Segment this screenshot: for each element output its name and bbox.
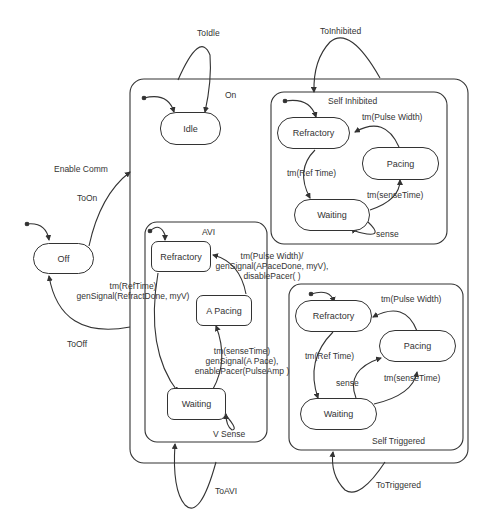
si-waiting-label: Waiting: [317, 210, 347, 220]
label-to-idle: ToIdle: [197, 28, 220, 38]
avi-label-ref-time: tm(RefTime) genSignal(RefractDone, myV): [70, 281, 196, 301]
st-waiting[interactable]: Waiting: [300, 398, 377, 430]
state-idle-label: Idle: [183, 124, 198, 134]
label-to-inhibited: ToInhibited: [320, 26, 361, 36]
avi-refractory-label: Refractory: [160, 252, 202, 262]
state-off[interactable]: Off: [33, 243, 94, 274]
si-label-ref-time: tm(Ref Time): [287, 168, 336, 178]
avi-a-pacing-label: A Pacing: [206, 306, 242, 316]
avi-title: AVI: [202, 227, 215, 237]
st-waiting-label: Waiting: [324, 409, 354, 419]
si-label-sense: sense: [376, 229, 399, 239]
avi-a-pacing[interactable]: A Pacing: [196, 295, 252, 326]
st-label-sense-time: tm(senseTime): [384, 373, 440, 383]
st-label-sense: sense: [336, 378, 359, 388]
label-enable-comm: Enable Comm: [54, 164, 108, 174]
si-refractory[interactable]: Refractory: [277, 117, 350, 149]
si-label-sense-time: tm(senseTime): [367, 190, 423, 200]
label-to-off: ToOff: [67, 339, 87, 349]
si-refractory-label: Refractory: [293, 128, 335, 138]
state-idle[interactable]: Idle: [160, 112, 221, 145]
si-label-pulse-width: tm(Pulse Width): [362, 112, 422, 122]
si-pacing-label: Pacing: [387, 159, 415, 169]
self-triggered-title: Self Triggered: [372, 436, 425, 446]
self-inhibited-title: Self Inhibited: [328, 96, 377, 106]
si-pacing[interactable]: Pacing: [362, 147, 439, 180]
avi-label-pulse-width: tm(Pulse Width)/ genSignal(APaceDone, my…: [207, 251, 337, 281]
st-pacing-label: Pacing: [404, 341, 432, 351]
label-to-avi: ToAVI: [215, 486, 237, 496]
st-pacing[interactable]: Pacing: [379, 330, 456, 362]
st-label-pulse-width: tm(Pulse Width): [381, 294, 441, 304]
avi-label-v-sense: V Sense: [213, 429, 245, 439]
avi-waiting-label: Waiting: [182, 399, 212, 409]
si-waiting[interactable]: Waiting: [294, 199, 370, 231]
avi-refractory[interactable]: Refractory: [151, 241, 211, 272]
st-label-ref-time: tm(Ref Time): [305, 351, 354, 361]
avi-waiting[interactable]: Waiting: [167, 388, 226, 420]
on-title: On: [225, 90, 236, 100]
avi-label-sense-time: tm(senseTime) genSignal(A Pace), enableP…: [188, 346, 296, 376]
label-to-triggered: ToTriggered: [376, 480, 421, 490]
st-refractory-label: Refractory: [313, 311, 355, 321]
st-refractory[interactable]: Refractory: [295, 300, 372, 332]
label-to-on: ToOn: [77, 193, 97, 203]
state-off-label: Off: [58, 254, 70, 264]
